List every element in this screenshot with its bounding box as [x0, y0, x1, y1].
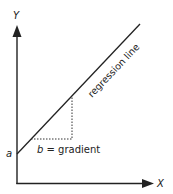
- x-axis-arrowhead-icon: [142, 179, 154, 188]
- x-axis-label: X: [156, 178, 165, 189]
- regression-line-label: regression line: [85, 41, 141, 99]
- gradient-label: b = gradient: [37, 144, 100, 155]
- regression-line: [17, 24, 140, 154]
- regression-diagram: Y X a regression line b = gradient: [0, 0, 173, 194]
- y-axis-arrowhead-icon: [13, 25, 22, 37]
- intercept-label: a: [6, 148, 12, 159]
- gradient-text: = gradient: [43, 144, 100, 155]
- y-axis-label: Y: [13, 10, 20, 21]
